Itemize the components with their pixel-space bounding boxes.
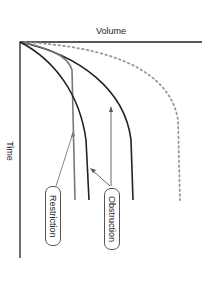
obstruction-arrowhead-up [109,106,113,112]
obstruction-curve-outer [20,42,133,200]
restriction-arrowhead [71,131,75,137]
time-axis-label: Time [5,137,15,165]
restriction-arrow [56,133,73,186]
restriction-curve [20,42,75,200]
obstruction-curve-inner [20,42,89,200]
normal-curve [20,42,180,200]
restriction-label: Restriction [45,186,61,246]
volume-axis-label: Volume [96,26,126,36]
spirometry-diagram: Volume Time Restriction Obstruction [0,0,216,286]
obstruction-arrow-left [92,170,110,186]
obstruction-label: Obstruction [104,188,120,250]
